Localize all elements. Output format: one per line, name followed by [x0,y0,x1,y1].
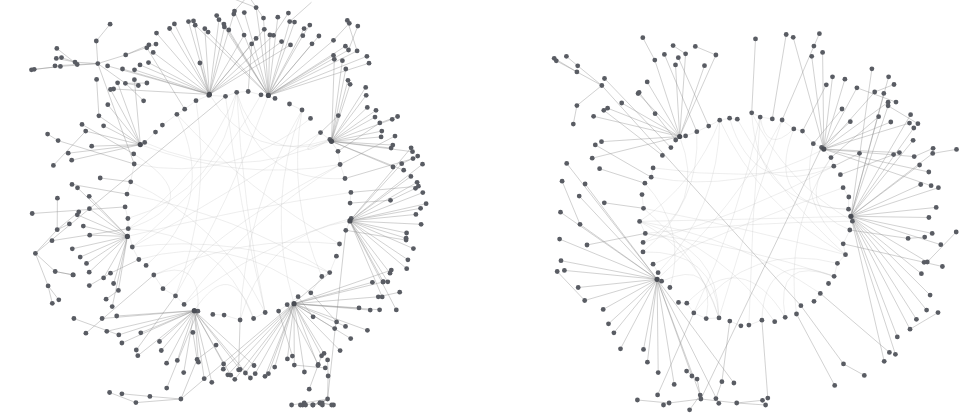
right-network-graph-panel [486,0,973,415]
figure-root [0,0,973,415]
right-nodes [552,31,959,412]
left-chord-edges [125,92,351,321]
left-network-graph-canvas [0,0,487,415]
right-network-graph-canvas [486,0,973,415]
left-network-graph-panel [0,0,487,415]
